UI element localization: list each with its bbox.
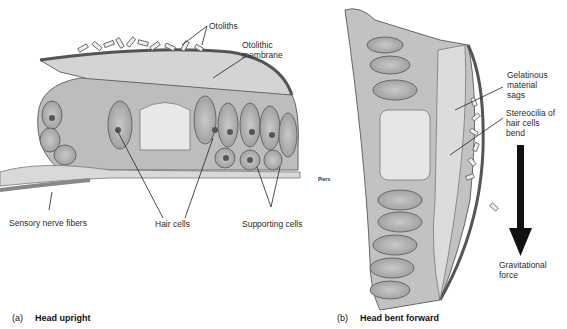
label-gravitational-line1: Gravitational <box>499 260 547 270</box>
label-otolithic-membrane-line2: membrane <box>242 50 283 60</box>
panel-b-letter: (b) <box>337 313 348 323</box>
label-hair-cells: Hair cells <box>155 219 190 229</box>
label-stereocilia-line3: bend <box>506 128 525 138</box>
label-sensory-nerve-fibers: Sensory nerve fibers <box>9 218 87 228</box>
panel-b-title: Head bent forward <box>360 313 439 323</box>
label-gravitational-line2: force <box>499 270 518 280</box>
label-gelatinous-line3: sags <box>507 90 525 100</box>
panel-a-caption: (a)Head upright <box>12 313 91 323</box>
label-supporting-cells: Supporting cells <box>242 219 302 229</box>
label-gelatinous-line1: Gelatinous <box>507 70 548 80</box>
label-otolithic-membrane-line1: Otolithic <box>242 40 273 50</box>
gravity-arrow-icon <box>509 145 532 256</box>
panel-a-title: Head upright <box>35 313 91 323</box>
label-stereocilia-line2: hair cells <box>506 118 540 128</box>
otolith-organ-illustration <box>0 0 567 329</box>
label-otoliths: Otoliths <box>209 21 238 31</box>
panel-b-caption: (b)Head bent forward <box>337 313 439 323</box>
label-gelatinous-line2: material <box>507 80 537 90</box>
panel-a-letter: (a) <box>12 313 23 323</box>
label-stereocilia-line1: Stereocilia of <box>506 108 555 118</box>
artist-signature: Piers <box>318 174 330 184</box>
